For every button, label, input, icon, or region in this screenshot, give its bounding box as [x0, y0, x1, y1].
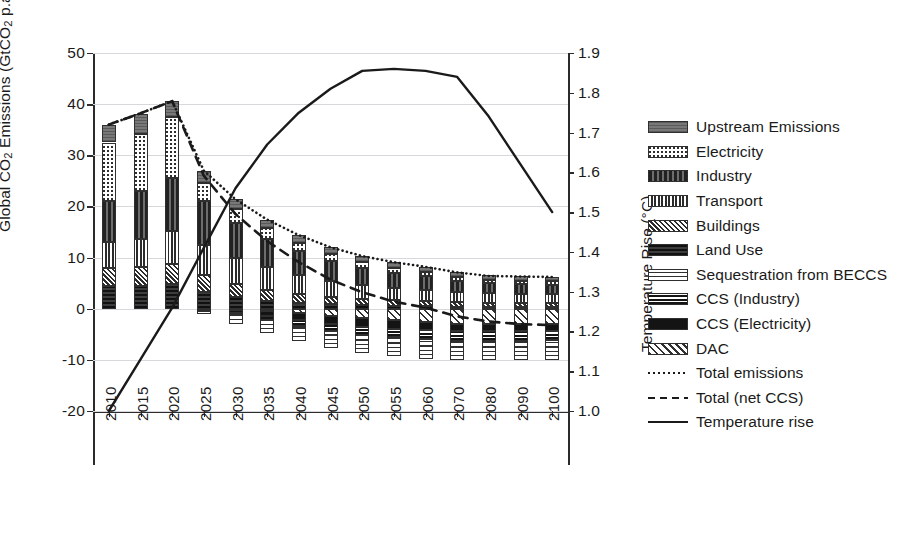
bar-stack — [134, 53, 148, 411]
bar-segment-industry — [355, 268, 369, 285]
legend-item[interactable]: Total emissions — [648, 361, 898, 386]
bar-segment-upstream — [545, 277, 559, 281]
bar-segment-buildings — [134, 267, 148, 285]
legend-label: Upstream Emissions — [696, 118, 840, 136]
legend-item[interactable]: Buildings — [648, 213, 898, 238]
legend-label: Industry — [696, 167, 752, 185]
legend-item[interactable]: CCS (Industry) — [648, 287, 898, 312]
y-tick — [87, 411, 93, 412]
bar-stack — [545, 53, 559, 411]
bar-segment-ccs_industry — [419, 330, 433, 339]
legend-line-icon — [648, 367, 688, 379]
legend-label: CCS (Industry) — [696, 290, 800, 308]
bar-segment-beccs — [229, 315, 243, 323]
bar-segment-landuse — [165, 284, 179, 309]
bar-segment-dac — [324, 309, 338, 316]
bar-segment-industry — [482, 283, 496, 293]
y-tick-right — [568, 212, 574, 213]
bar-segment-ccs_industry — [482, 331, 496, 341]
bar-stack — [419, 53, 433, 411]
legend-swatch-icon — [648, 318, 688, 330]
bar-stack — [260, 53, 274, 411]
legend-item[interactable]: CCS (Electricity) — [648, 312, 898, 337]
bar-segment-industry — [450, 281, 464, 292]
legend-swatch-icon — [648, 343, 688, 355]
bar-segment-ccs_industry — [387, 329, 401, 338]
y-tick-label-right: 1.6 — [578, 163, 600, 181]
y-tick-label: -10 — [37, 351, 85, 369]
legend-item[interactable]: Industry — [648, 164, 898, 189]
bar-segment-beccs — [197, 311, 211, 314]
legend-swatch-icon — [648, 220, 688, 232]
bar-segment-electricity — [134, 134, 148, 190]
bar-segment-electricity — [514, 281, 528, 285]
bar-segment-buildings — [324, 297, 338, 304]
y-tick-right — [568, 133, 574, 134]
bar-segment-dac — [355, 309, 369, 319]
bar-stack — [355, 53, 369, 411]
bar-segment-dac — [387, 309, 401, 321]
legend-label: DAC — [696, 340, 729, 358]
bar-segment-ccs_electricity — [292, 313, 306, 320]
bar-segment-upstream — [102, 125, 116, 143]
bar-segment-ccs_electricity — [387, 320, 401, 328]
y-tick-right — [568, 411, 574, 412]
bar-segment-industry — [387, 273, 401, 288]
bar-segment-landuse — [134, 286, 148, 309]
bar-segment-transport — [482, 293, 496, 302]
y-tick — [87, 258, 93, 259]
bar-segment-ccs_industry — [324, 324, 338, 331]
bar-segment-buildings — [165, 264, 179, 284]
legend-item[interactable]: Transport — [648, 189, 898, 214]
legend-item[interactable]: Total (net CCS) — [648, 386, 898, 411]
bar-stack — [197, 53, 211, 411]
legend-item[interactable]: Sequestration from BECCS — [648, 263, 898, 288]
bar-segment-electricity — [387, 268, 401, 273]
bar-segment-transport — [260, 267, 274, 290]
y-axis-right — [568, 53, 570, 465]
bar-segment-beccs — [514, 341, 528, 360]
bar-segment-electricity — [450, 277, 464, 281]
bar-segment-industry — [102, 201, 116, 242]
bar-segment-transport — [102, 242, 116, 268]
legend-item[interactable]: Temperature rise — [648, 410, 898, 435]
bar-segment-transport — [324, 281, 338, 297]
bar-segment-upstream — [324, 247, 338, 254]
legend-item[interactable]: Land Use — [648, 238, 898, 263]
bar-segment-dac — [419, 309, 433, 322]
legend-item[interactable]: Electricity — [648, 140, 898, 165]
y-tick-label-right: 1.4 — [578, 243, 600, 261]
bar-segment-upstream — [387, 262, 401, 268]
legend-label: Total emissions — [696, 364, 803, 382]
y-tick-right — [568, 172, 574, 173]
legend-swatch-icon — [648, 170, 688, 182]
chart-legend: Upstream EmissionsElectricityIndustryTra… — [648, 115, 898, 435]
legend-item[interactable]: Upstream Emissions — [648, 115, 898, 140]
bar-stack — [450, 53, 464, 411]
bar-segment-buildings — [260, 290, 274, 301]
y-tick-label: 0 — [37, 300, 85, 318]
bar-segment-dac — [545, 309, 559, 324]
bar-segment-ccs_electricity — [514, 324, 528, 331]
y-tick-right — [568, 93, 574, 94]
y-tick-label-right: 1.5 — [578, 203, 600, 221]
bar-segment-beccs — [292, 326, 306, 341]
bar-segment-transport — [545, 294, 559, 303]
y-axis-left — [93, 53, 95, 465]
bar-segment-beccs — [482, 341, 496, 360]
y-tick-label: -20 — [37, 402, 85, 420]
legend-item[interactable]: DAC — [648, 336, 898, 361]
bar-segment-industry — [197, 201, 211, 244]
y-tick-label-right: 1.9 — [578, 44, 600, 62]
y-tick-label-right: 1.3 — [578, 283, 600, 301]
bar-segment-upstream — [450, 272, 464, 277]
bar-segment-electricity — [419, 272, 433, 277]
bar-segment-electricity — [292, 243, 306, 252]
bar-segment-landuse — [260, 301, 274, 309]
bar-segment-industry — [324, 261, 338, 281]
bar-stack — [165, 53, 179, 411]
bar-segment-industry — [292, 251, 306, 275]
bar-segment-industry — [165, 178, 179, 232]
bar-segment-landuse — [229, 297, 243, 308]
bar-segment-transport — [514, 294, 528, 303]
